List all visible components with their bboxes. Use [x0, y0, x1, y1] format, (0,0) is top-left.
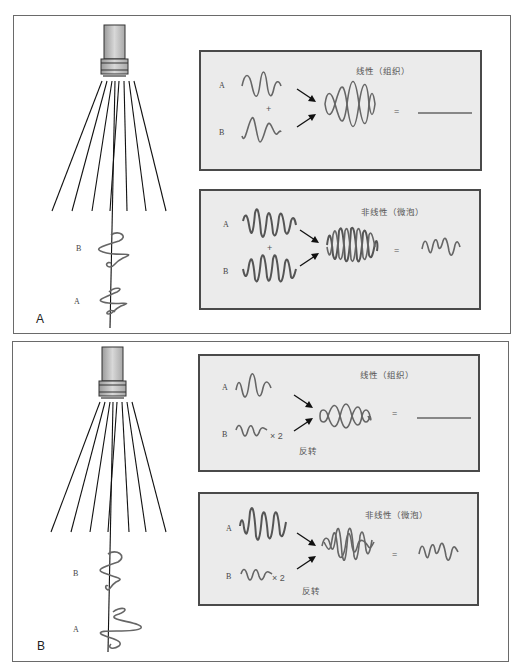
input-a-label: A	[219, 81, 225, 90]
panel-letter: A	[36, 312, 44, 326]
interference-pattern	[318, 396, 374, 436]
wave-b	[235, 420, 269, 442]
nonlinear-microbubble-box: 非线性（微泡） A B × 2 反转 =	[198, 492, 479, 606]
interference-pattern	[320, 522, 376, 568]
arrow-a-icon	[296, 88, 318, 104]
nonlinear-microbubble-box: 非线性（微泡） A B + =	[199, 189, 481, 310]
arrow-b-icon	[299, 251, 321, 267]
multiplier-label: × 2	[270, 431, 283, 441]
residual-result-waveform	[418, 538, 460, 564]
input-b-label: B	[219, 128, 224, 137]
pulse-a-waveform	[89, 284, 149, 329]
beam-label-lower: A	[74, 297, 80, 306]
pulse-a-waveform	[85, 604, 160, 654]
linear-tissue-box: 线性（组织） A B × 2 反转 =	[198, 354, 480, 472]
panel-b: B A B 线性（组织） A B × 2 反转 =	[12, 341, 509, 662]
invert-label: 反转	[299, 444, 317, 456]
linear-tissue-box: 线性（组织） A B + =	[199, 50, 482, 171]
invert-label: 反转	[302, 584, 320, 596]
arrow-b-icon	[293, 416, 315, 432]
equals-sign: =	[392, 408, 397, 418]
wave-a	[241, 207, 297, 241]
equals-sign: =	[392, 549, 397, 559]
input-b-label: B	[222, 430, 227, 439]
arrow-a-icon	[299, 229, 321, 245]
beam-label-upper: B	[73, 569, 78, 578]
flat-result-line	[417, 416, 473, 420]
input-b-label: B	[223, 267, 228, 276]
linear-title: 线性（组织）	[360, 368, 414, 380]
beam-label-upper: B	[76, 244, 81, 253]
equals-sign: =	[394, 106, 399, 116]
input-a-label: A	[226, 524, 232, 533]
input-a-label: A	[223, 220, 229, 229]
flat-result-line	[418, 111, 474, 115]
wave-a	[238, 504, 288, 544]
interference-pattern	[325, 225, 379, 265]
wave-b	[241, 251, 297, 285]
wave-a	[235, 368, 275, 402]
nonlinear-title: 非线性（微泡）	[365, 508, 428, 520]
arrow-b-icon	[296, 554, 318, 570]
wave-b	[241, 112, 283, 148]
interference-pattern	[321, 72, 377, 136]
residual-result-waveform	[421, 233, 461, 259]
pulse-b-waveform	[88, 550, 148, 600]
nonlinear-title: 非线性（微泡）	[361, 205, 424, 217]
arrow-b-icon	[296, 112, 318, 128]
wave-b	[240, 564, 274, 586]
arrow-a-icon	[296, 532, 318, 548]
panel-letter: B	[37, 639, 45, 653]
wave-a	[241, 66, 283, 102]
pulse-b-waveform	[89, 231, 149, 281]
equals-sign: =	[394, 245, 399, 255]
beam-label-lower: A	[73, 625, 79, 634]
panel-a: B A A 线性（组织） A B + = 非线性	[13, 15, 511, 334]
arrow-a-icon	[293, 394, 315, 410]
input-b-label: B	[226, 572, 231, 581]
input-a-label: A	[222, 383, 228, 392]
